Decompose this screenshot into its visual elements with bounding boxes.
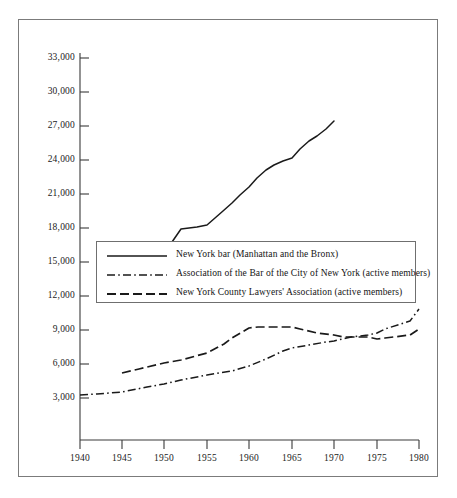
y-tick-label: 30,000 — [21, 86, 75, 96]
x-tick-label: 1960 — [231, 453, 267, 463]
x-tick-label: 1975 — [359, 453, 395, 463]
y-tick-label: 3,000 — [21, 392, 75, 402]
y-tick-label: 24,000 — [21, 154, 75, 164]
series-line-association-of-the-bar — [80, 309, 419, 395]
y-tick-label: 33,000 — [21, 52, 75, 62]
x-tick-label: 1955 — [189, 453, 225, 463]
legend-swatch-solid — [106, 248, 168, 260]
y-tick-label: 15,000 — [21, 256, 75, 266]
chart-legend: New York bar (Manhattan and the Bronx) A… — [96, 241, 416, 303]
chart-figure: 33,000 30,000 27,000 24,000 21,000 18,00… — [0, 0, 457, 498]
x-tick-label: 1950 — [146, 453, 182, 463]
legend-swatch-dashed — [106, 286, 168, 298]
y-tick-label: 12,000 — [21, 290, 75, 300]
x-tick-label: 1965 — [274, 453, 310, 463]
y-tick-label: 6,000 — [21, 358, 75, 368]
y-tick-label: 21,000 — [21, 188, 75, 198]
x-tick-label: 1940 — [62, 453, 98, 463]
y-tick-label: 9,000 — [21, 324, 75, 334]
chart-frame: 33,000 30,000 27,000 24,000 21,000 18,00… — [18, 19, 438, 477]
x-tick-label: 1970 — [316, 453, 352, 463]
x-tick-label: 1945 — [104, 453, 140, 463]
y-tick-label: 18,000 — [21, 222, 75, 232]
legend-item: Association of the Bar of the City of Ne… — [97, 263, 415, 282]
legend-item: New York County Lawyers' Association (ac… — [97, 282, 415, 301]
legend-label: New York County Lawyers' Association (ac… — [176, 287, 402, 297]
legend-label: New York bar (Manhattan and the Bronx) — [176, 249, 338, 259]
y-axis-ticks — [80, 58, 89, 398]
legend-label: Association of the Bar of the City of Ne… — [176, 268, 430, 278]
x-tick-label: 1980 — [401, 453, 437, 463]
legend-item: New York bar (Manhattan and the Bronx) — [97, 244, 415, 263]
legend-swatch-dashdot — [106, 267, 168, 279]
series-line-county-lawyers-association — [122, 327, 419, 373]
y-tick-label: 27,000 — [21, 120, 75, 130]
x-axis-ticks — [80, 440, 419, 449]
